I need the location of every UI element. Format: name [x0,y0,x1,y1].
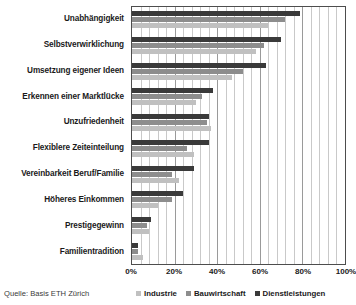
bar-dienstleistungen [132,217,151,222]
bar-dienstleistungen [132,140,209,145]
category-tick [131,84,132,85]
bar-industrie [132,203,158,208]
value-tick-label: 60% [252,267,268,276]
category-tick [131,58,132,59]
bar-industrie [132,229,149,234]
bar-group [132,33,345,59]
bar-dienstleistungen [132,191,183,196]
category-label: Flexiblere Zeiteinteilung [0,136,128,162]
bar-dienstleistungen [132,37,281,42]
plot-wrapper [131,6,346,265]
value-axis-labels: 0%20%40%60%80%100% [131,267,346,279]
bar-industrie [132,75,232,80]
bar-industrie [132,152,194,157]
bar-group [132,238,345,264]
chart-legend: IndustrieBauwirtschaftDienstleistungen [136,289,325,298]
value-tick-label: 100% [336,267,356,276]
bar-bauwirtschaft [132,223,147,228]
bar-dienstleistungen [132,114,209,119]
bar-group [132,213,345,239]
value-tick-label: 20% [166,267,182,276]
value-tick-label: 80% [295,267,311,276]
bar-industrie [132,100,196,105]
legend-item[interactable]: Industrie [136,289,177,298]
bar-group [132,161,345,187]
source-note: Quelle: Basis ETH Zürich [4,289,89,298]
category-label: Höheres Einkommen [0,187,128,213]
bar-group [132,136,345,162]
bar-dienstleistungen [132,166,194,171]
value-tick-label: 40% [209,267,225,276]
bar-bauwirtschaft [132,249,138,254]
bar-dienstleistungen [132,63,266,68]
category-label: Prestigegewinn [0,213,128,239]
legend-swatch-icon [255,291,260,296]
category-tick [131,187,132,188]
legend-swatch-icon [186,291,191,296]
bar-bauwirtschaft [132,94,202,99]
bar-bauwirtschaft [132,197,172,202]
bar-group [132,58,345,84]
category-label: Unzufriedenheit [0,110,128,136]
bar-bauwirtschaft [132,146,187,151]
category-tick [131,110,132,111]
bar-bauwirtschaft [132,17,285,22]
category-label: Selbstverwirklichung [0,32,128,58]
category-tick [131,161,132,162]
legend-item[interactable]: Dienstleistungen [255,289,326,298]
bar-group [132,110,345,136]
bar-bauwirtschaft [132,120,207,125]
category-tick [131,238,132,239]
category-label: Vereinbarkeit Beruf/Familie [0,161,128,187]
bar-industrie [132,49,256,54]
category-label: Umsetzung eigener Ideen [0,58,128,84]
legend-label: Bauwirtschaft [194,289,246,298]
bar-dienstleistungen [132,11,300,16]
legend-item[interactable]: Bauwirtschaft [186,289,246,298]
category-label: Unabhängigkeit [0,6,128,32]
bar-industrie [132,178,179,183]
legend-swatch-icon [136,291,141,296]
category-label: Erkennen einer Marktlücke [0,84,128,110]
bar-bauwirtschaft [132,43,264,48]
bar-industrie [132,23,268,28]
bar-dienstleistungen [132,88,213,93]
bar-dienstleistungen [132,243,138,248]
category-label: Familientradition [0,239,128,265]
bar-bauwirtschaft [132,172,172,177]
category-tick [131,33,132,34]
bar-industrie [132,126,211,131]
category-axis-labels: UnabhängigkeitSelbstverwirklichungUmsetz… [0,6,128,265]
category-tick [131,136,132,137]
bar-industrie [132,255,143,260]
bar-group [132,84,345,110]
plot-area [131,6,346,265]
value-tick-label: 0% [125,267,137,276]
legend-label: Industrie [144,289,177,298]
bar-group [132,187,345,213]
bar-group [132,7,345,33]
category-tick [131,264,132,265]
legend-label: Dienstleistungen [263,289,326,298]
bar-bauwirtschaft [132,69,243,74]
bar-groups [132,7,345,264]
category-tick [131,213,132,214]
